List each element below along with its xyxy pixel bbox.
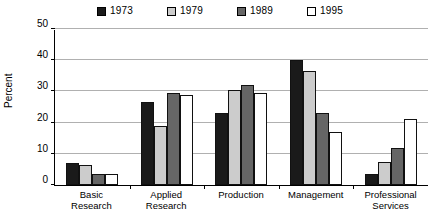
- bar[interactable]: [141, 102, 154, 185]
- legend-label: 1979: [180, 6, 203, 16]
- x-axis-label-line: Production: [204, 189, 279, 200]
- bar[interactable]: [241, 85, 254, 185]
- y-tick-label: 30: [37, 81, 48, 91]
- x-axis-label: Management: [278, 189, 353, 217]
- bar-group: [130, 30, 205, 185]
- x-axis-label-line: Services: [353, 200, 428, 211]
- y-tick-label: 0: [42, 175, 48, 185]
- legend-label: 1989: [250, 6, 273, 16]
- bar-group: [204, 30, 279, 185]
- x-axis-label-line: Applied: [129, 189, 204, 200]
- bar[interactable]: [154, 126, 167, 185]
- gridline: [55, 28, 428, 29]
- legend-label: 1995: [320, 6, 343, 16]
- plot-area: 01020304050: [54, 30, 428, 186]
- bar[interactable]: [365, 174, 378, 185]
- x-axis-label: AppliedResearch: [129, 189, 204, 217]
- y-tick-mark: [51, 28, 55, 29]
- legend-swatch-icon: [167, 7, 176, 16]
- bar[interactable]: [404, 119, 417, 185]
- legend-swatch-icon: [237, 7, 246, 16]
- bar-group: [353, 30, 428, 185]
- bar[interactable]: [66, 163, 79, 185]
- bar[interactable]: [316, 113, 329, 185]
- y-tick-label: 10: [37, 144, 48, 154]
- legend-label: 1973: [110, 6, 133, 16]
- x-axis-label-line: Research: [54, 200, 129, 211]
- bar[interactable]: [105, 174, 118, 185]
- y-tick-label: 50: [37, 19, 48, 29]
- bar-group: [279, 30, 354, 185]
- y-tick-label: 40: [37, 50, 48, 60]
- x-axis-label-line: Management: [278, 189, 353, 200]
- x-axis-label: ProfessionalServices: [353, 189, 428, 217]
- bar[interactable]: [167, 93, 180, 185]
- legend-item[interactable]: 1973: [97, 6, 133, 16]
- bar[interactable]: [228, 90, 241, 185]
- legend-item[interactable]: 1979: [167, 6, 203, 16]
- legend-item[interactable]: 1995: [307, 6, 343, 16]
- bar[interactable]: [92, 174, 105, 185]
- bar[interactable]: [378, 162, 391, 185]
- bar[interactable]: [303, 71, 316, 185]
- legend-swatch-icon: [307, 7, 316, 16]
- bar[interactable]: [329, 132, 342, 185]
- x-axis-label-line: Research: [129, 200, 204, 211]
- bar[interactable]: [254, 93, 267, 185]
- y-tick-label: 20: [37, 113, 48, 123]
- x-axis-label-line: Professional: [353, 189, 428, 200]
- bar[interactable]: [391, 148, 404, 185]
- bar-groups: [55, 30, 428, 185]
- legend-item[interactable]: 1989: [237, 6, 273, 16]
- bar-group: [55, 30, 130, 185]
- bar-chart: 1973197919891995 Percent 01020304050 Bas…: [0, 0, 440, 218]
- x-axis-label-line: Basic: [54, 189, 129, 200]
- x-axis-label: Production: [204, 189, 279, 217]
- y-axis-title: Percent: [4, 74, 14, 108]
- bar[interactable]: [215, 113, 228, 185]
- x-axis-labels: BasicResearchAppliedResearchProductionMa…: [54, 189, 428, 217]
- bar[interactable]: [79, 165, 92, 185]
- chart-legend: 1973197919891995: [0, 3, 440, 19]
- x-axis-label: BasicResearch: [54, 189, 129, 217]
- legend-swatch-icon: [97, 7, 106, 16]
- bar[interactable]: [180, 95, 193, 185]
- bar[interactable]: [290, 60, 303, 185]
